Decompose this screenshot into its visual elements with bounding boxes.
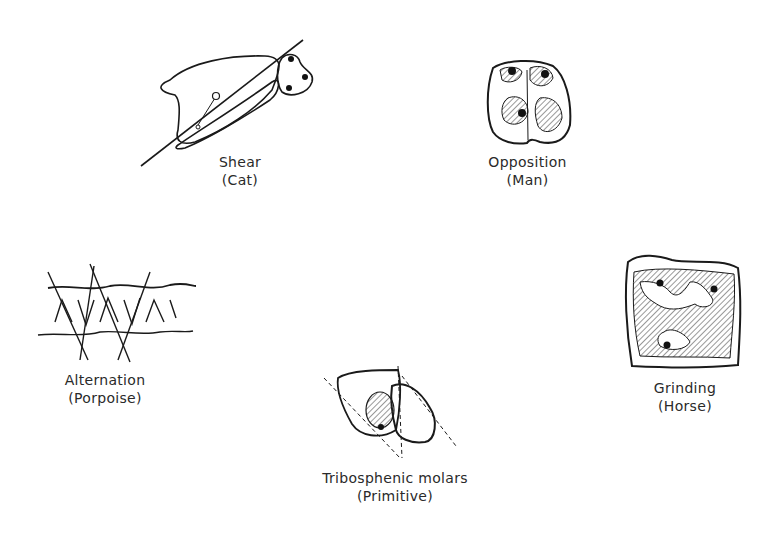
shear-subtitle: (Cat)	[185, 171, 295, 189]
shear-label: Shear (Cat)	[185, 153, 295, 189]
grinding-tooth-illustration	[626, 256, 740, 368]
grinding-title: Grinding	[625, 379, 745, 397]
opposition-tooth-illustration	[488, 61, 571, 144]
grinding-label: Grinding (Horse)	[625, 379, 745, 415]
opposition-label: Opposition (Man)	[470, 153, 585, 189]
occlusion-diagram	[0, 0, 764, 534]
shear-title: Shear	[185, 153, 295, 171]
alternation-label: Alternation (Porpoise)	[40, 371, 170, 407]
opposition-title: Opposition	[470, 153, 585, 171]
opposition-subtitle: (Man)	[470, 171, 585, 189]
tribosphenic-title: Tribosphenic molars	[300, 469, 490, 487]
cat-molar-cross-section	[278, 55, 313, 95]
shear-tooth-illustration	[141, 40, 312, 166]
tribosphenic-subtitle: (Primitive)	[300, 487, 490, 505]
lower-carnassial	[176, 80, 279, 148]
alternation-teeth-illustration	[38, 264, 196, 362]
alternation-title: Alternation	[40, 371, 170, 389]
tribosphenic-label: Tribosphenic molars (Primitive)	[300, 469, 490, 505]
grinding-subtitle: (Horse)	[625, 397, 745, 415]
tribosphenic-molars-illustration	[324, 366, 456, 458]
alternation-subtitle: (Porpoise)	[40, 389, 170, 407]
